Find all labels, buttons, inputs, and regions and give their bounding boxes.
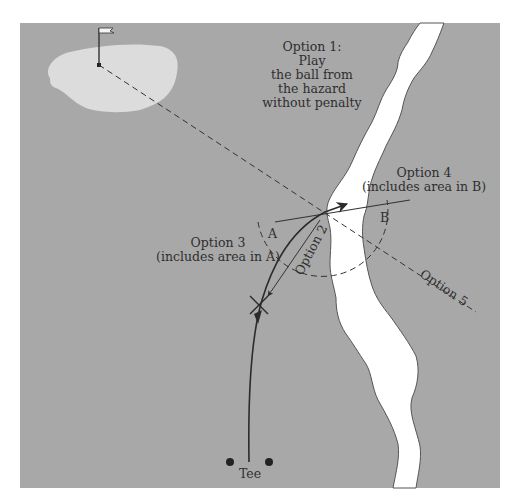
tee-marker-right xyxy=(265,458,273,466)
svg-text:the hazard: the hazard xyxy=(278,81,346,96)
area-a-label: A xyxy=(267,226,278,241)
svg-text:the ball from: the ball from xyxy=(271,67,353,82)
svg-text:Play: Play xyxy=(299,53,327,68)
svg-text:(includes area in B): (includes area in B) xyxy=(362,179,486,194)
golf-hazard-diagram: Option 1: Play the ball from the hazard … xyxy=(0,0,518,504)
svg-text:Option 1:: Option 1: xyxy=(283,39,342,54)
svg-text:Option 3: Option 3 xyxy=(191,235,246,250)
tee-marker-left xyxy=(226,458,234,466)
area-b-label: B xyxy=(380,210,389,225)
tee-label: Tee xyxy=(239,466,261,481)
svg-text:Option 4: Option 4 xyxy=(397,165,452,180)
svg-text:(includes area in A): (includes area in A) xyxy=(156,249,280,264)
svg-text:without penalty: without penalty xyxy=(262,95,362,110)
